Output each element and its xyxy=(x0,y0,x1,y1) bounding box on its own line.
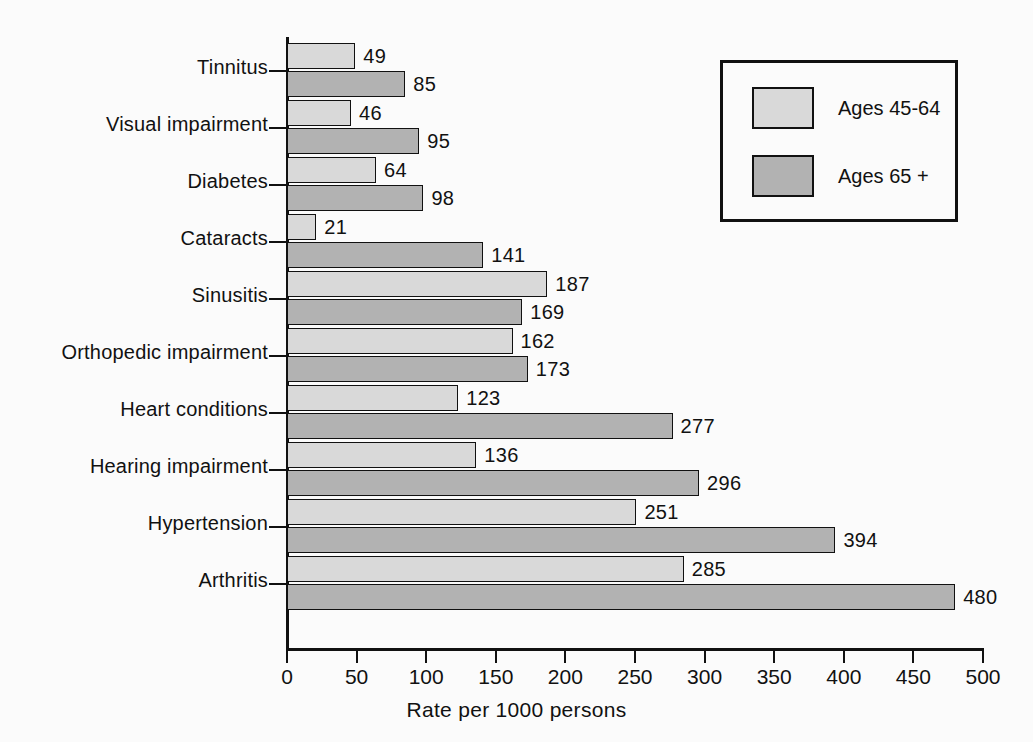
category-tick xyxy=(269,469,287,471)
bar-value-label: 162 xyxy=(521,328,555,354)
bar-value-label: 285 xyxy=(692,556,726,582)
x-tick xyxy=(773,651,775,663)
bar-orthopedic-impairment-ages-45-64 xyxy=(287,328,513,354)
bar-value-label: 187 xyxy=(555,271,589,297)
x-tick xyxy=(425,651,427,663)
x-tick xyxy=(982,651,984,663)
chart-canvas: TinnitusVisual impairmentDiabetesCatarac… xyxy=(0,0,1033,742)
bar-value-label: 169 xyxy=(530,299,564,325)
category-tick xyxy=(269,298,287,300)
bar-sinusitis-ages-65-plus xyxy=(287,299,522,325)
x-tick-label: 250 xyxy=(617,665,652,689)
bar-heart-conditions-ages-65-plus xyxy=(287,413,673,439)
x-tick xyxy=(912,651,914,663)
bar-value-label: 98 xyxy=(431,185,454,211)
bar-arthritis-ages-65-plus xyxy=(287,584,955,610)
bar-cataracts-ages-65-plus xyxy=(287,242,483,268)
category-label-heart-conditions: Heart conditions xyxy=(120,398,268,421)
bar-value-label: 141 xyxy=(491,242,525,268)
category-tick xyxy=(269,355,287,357)
bar-value-label: 64 xyxy=(384,157,407,183)
category-tick xyxy=(269,184,287,186)
category-label-sinusitis: Sinusitis xyxy=(192,284,268,307)
chart-legend: Ages 45-64 Ages 65 + xyxy=(720,60,958,222)
x-tick xyxy=(634,651,636,663)
category-tick xyxy=(269,583,287,585)
bar-visual-impairment-ages-45-64 xyxy=(287,100,351,126)
bar-diabetes-ages-65-plus xyxy=(287,185,423,211)
bar-value-label: 95 xyxy=(427,128,450,154)
x-tick-label: 200 xyxy=(548,665,583,689)
category-tick xyxy=(269,241,287,243)
bar-tinnitus-ages-65-plus xyxy=(287,71,405,97)
category-label-hearing-impairment: Hearing impairment xyxy=(90,455,268,478)
bar-cataracts-ages-45-64 xyxy=(287,214,316,240)
bar-sinusitis-ages-45-64 xyxy=(287,271,547,297)
category-tick xyxy=(269,127,287,129)
x-tick xyxy=(495,651,497,663)
x-tick xyxy=(704,651,706,663)
category-tick xyxy=(269,412,287,414)
legend-label-ages-65-plus: Ages 65 + xyxy=(838,165,929,188)
bar-heart-conditions-ages-45-64 xyxy=(287,385,458,411)
x-tick xyxy=(843,651,845,663)
bar-value-label: 277 xyxy=(681,413,715,439)
legend-swatch-icon-ages-45-64 xyxy=(752,87,814,129)
bar-value-label: 123 xyxy=(466,385,500,411)
bar-value-label: 394 xyxy=(843,527,877,553)
legend-item-ages-65-plus: Ages 65 + xyxy=(752,155,929,197)
bar-value-label: 480 xyxy=(963,584,997,610)
x-tick-label: 150 xyxy=(478,665,513,689)
category-label-visual-impairment: Visual impairment xyxy=(106,113,268,136)
bar-value-label: 173 xyxy=(536,356,570,382)
x-tick-label: 450 xyxy=(896,665,931,689)
x-tick-label: 500 xyxy=(965,665,1000,689)
x-tick xyxy=(286,651,288,663)
x-tick xyxy=(564,651,566,663)
legend-label-ages-45-64: Ages 45-64 xyxy=(838,97,940,120)
x-tick-label: 300 xyxy=(687,665,722,689)
bar-value-label: 49 xyxy=(363,43,386,69)
category-tick xyxy=(269,526,287,528)
bar-hearing-impairment-ages-45-64 xyxy=(287,442,476,468)
category-label-tinnitus: Tinnitus xyxy=(197,56,268,79)
category-label-orthopedic-impairment: Orthopedic impairment xyxy=(61,341,268,364)
legend-swatch-icon-ages-65-plus xyxy=(752,155,814,197)
x-tick-label: 350 xyxy=(757,665,792,689)
x-tick xyxy=(356,651,358,663)
category-label-diabetes: Diabetes xyxy=(187,170,268,193)
bar-visual-impairment-ages-65-plus xyxy=(287,128,419,154)
bar-value-label: 251 xyxy=(644,499,678,525)
category-label-cataracts: Cataracts xyxy=(181,227,268,250)
bar-value-label: 21 xyxy=(324,214,347,240)
category-label-hypertension: Hypertension xyxy=(148,512,268,535)
bar-hearing-impairment-ages-65-plus xyxy=(287,470,699,496)
x-tick-label: 400 xyxy=(826,665,861,689)
category-axis: TinnitusVisual impairmentDiabetesCatarac… xyxy=(0,0,268,742)
bar-orthopedic-impairment-ages-65-plus xyxy=(287,356,528,382)
bar-tinnitus-ages-45-64 xyxy=(287,43,355,69)
bar-value-label: 296 xyxy=(707,470,741,496)
bar-value-label: 136 xyxy=(484,442,518,468)
x-tick-label: 100 xyxy=(409,665,444,689)
bar-diabetes-ages-45-64 xyxy=(287,157,376,183)
bar-hypertension-ages-65-plus xyxy=(287,527,835,553)
x-tick-label: 50 xyxy=(345,665,368,689)
legend-item-ages-45-64: Ages 45-64 xyxy=(752,87,940,129)
bar-value-label: 85 xyxy=(413,71,436,97)
category-label-arthritis: Arthritis xyxy=(198,569,268,592)
bar-arthritis-ages-45-64 xyxy=(287,556,684,582)
x-axis-title: Rate per 1000 persons xyxy=(0,698,1033,722)
bar-value-label: 46 xyxy=(359,100,382,126)
category-tick xyxy=(269,70,287,72)
bar-hypertension-ages-45-64 xyxy=(287,499,636,525)
x-tick-label: 0 xyxy=(281,665,293,689)
